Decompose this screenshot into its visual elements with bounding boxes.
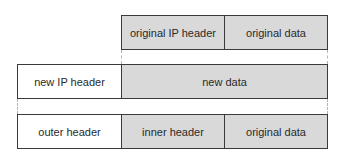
cell-label: original data	[246, 27, 306, 39]
cell-label: original IP header	[130, 27, 216, 39]
cell-label: new IP header	[34, 76, 105, 88]
cell-label: outer header	[38, 126, 100, 138]
original-data-cell: original data	[224, 15, 328, 50]
cell-label: original data	[246, 126, 306, 138]
new-ip-header-cell: new IP header	[17, 64, 122, 99]
new-data-cell: new data	[121, 64, 328, 99]
original-data-cell: original data	[224, 114, 328, 149]
original-ip-header-cell: original IP header	[121, 15, 225, 50]
connector-line-left	[17, 99, 18, 114]
connector-line-right	[327, 99, 328, 114]
cell-label: new data	[202, 76, 247, 88]
cell-label: inner header	[142, 126, 204, 138]
outer-header-cell: outer header	[17, 114, 122, 149]
inner-header-cell: inner header	[121, 114, 225, 149]
connector-line-left	[121, 50, 122, 64]
connector-line-right	[327, 50, 328, 64]
